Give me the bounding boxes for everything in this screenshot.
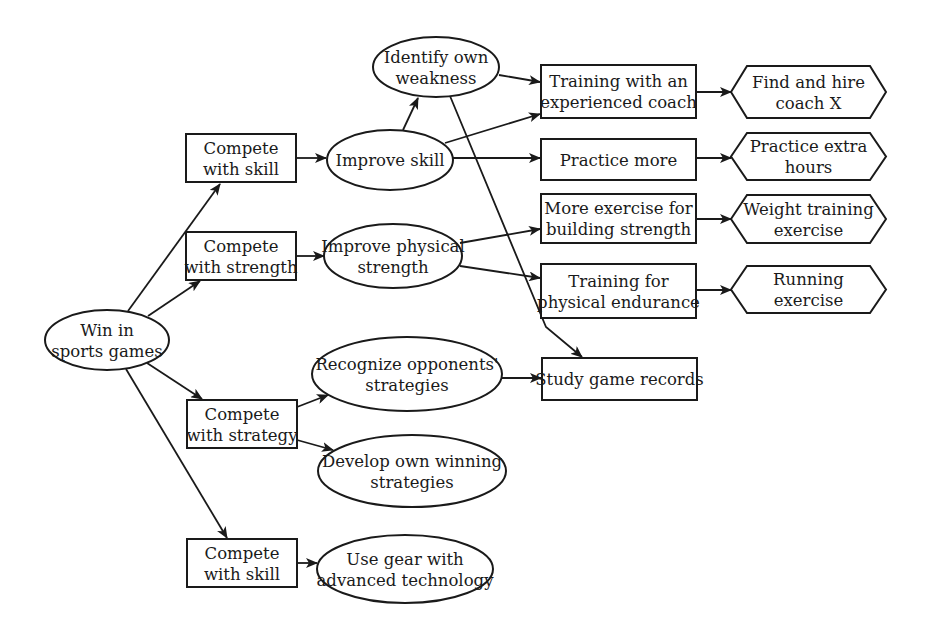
- node-label: Improve physical: [321, 237, 465, 256]
- node-label: Weight training: [743, 200, 874, 219]
- node-label: strength: [357, 258, 429, 277]
- node-extra-hours: Practice extrahours: [731, 133, 886, 180]
- nodes: Win insports gamesCompetewith skillCompe…: [45, 37, 886, 603]
- arrow-improve_skill-to-identify: [403, 98, 418, 130]
- node-hire: Find and hirecoach X: [731, 66, 886, 118]
- node-identify: Identify ownweakness: [373, 37, 499, 97]
- node-practice-more: Practice more: [541, 139, 696, 180]
- node-label: weakness: [395, 69, 476, 88]
- node-label: Training with an: [549, 72, 688, 91]
- node-label: Compete: [204, 237, 279, 256]
- ellipse-shape: [45, 310, 169, 370]
- node-win: Win insports games: [45, 310, 169, 370]
- node-label: Practice extra: [750, 137, 868, 156]
- ellipse-shape: [312, 337, 502, 411]
- ellipse-shape: [324, 224, 462, 288]
- node-label: exercise: [774, 291, 843, 310]
- arrow-win-to-strategy: [147, 363, 202, 399]
- node-label: Running: [773, 270, 844, 289]
- node-label: Win in: [80, 321, 134, 340]
- node-label: sports games: [51, 342, 162, 361]
- node-improve-skill: Improve skill: [327, 130, 453, 190]
- arrow-identify-to-coach_training: [499, 75, 540, 82]
- node-endurance: Training forphysical endurance: [537, 264, 700, 318]
- arrow-strategy-to-recognize: [297, 395, 328, 407]
- node-recognize: Recognize opponents'strategies: [312, 337, 502, 411]
- goal-tree-diagram: Win insports gamesCompetewith skillCompe…: [0, 0, 926, 639]
- arrow-win-to-strength: [148, 281, 200, 316]
- node-more-exercise: More exercise forbuilding strength: [541, 194, 696, 243]
- node-label: coach X: [776, 94, 842, 113]
- arrow-improve_strength-to-endurance: [460, 266, 540, 278]
- node-label: Recognize opponents': [315, 355, 498, 374]
- node-label: Develop own winning: [322, 452, 503, 471]
- node-label: hours: [785, 158, 833, 177]
- node-study: Study game records: [535, 358, 704, 400]
- ellipse-shape: [373, 37, 499, 97]
- node-label: Use gear with: [346, 550, 464, 569]
- arrow-improve_strength-to-more_exercise: [460, 229, 540, 243]
- node-weight: Weight trainingexercise: [731, 195, 886, 243]
- node-label: Identify own: [384, 48, 489, 67]
- node-label: Compete: [204, 139, 279, 158]
- node-skill1: Competewith skill: [186, 134, 296, 182]
- node-label: Study game records: [535, 370, 704, 389]
- node-label: Practice more: [560, 151, 677, 170]
- node-strength: Competewith strength: [184, 232, 297, 280]
- node-label: physical endurance: [537, 293, 700, 312]
- arrow-win-to-skill2: [126, 369, 227, 538]
- node-label: exercise: [774, 221, 843, 240]
- node-coach-training: Training with anexperienced coach: [540, 65, 697, 118]
- node-label: Compete: [205, 544, 280, 563]
- ellipse-shape: [318, 435, 506, 507]
- node-develop: Develop own winningstrategies: [318, 435, 506, 507]
- node-label: Improve skill: [335, 151, 444, 170]
- node-label: with skill: [204, 565, 280, 584]
- node-label: strategies: [365, 376, 448, 395]
- node-label: with strategy: [186, 426, 298, 445]
- node-running: Runningexercise: [731, 266, 886, 313]
- node-skill2: Competewith skill: [187, 539, 297, 587]
- node-label: Training for: [568, 272, 668, 291]
- node-label: with skill: [203, 160, 279, 179]
- arrow-strategy-to-develop: [297, 440, 333, 450]
- node-label: with strength: [184, 258, 297, 277]
- node-strategy: Competewith strategy: [186, 400, 298, 448]
- node-gear: Use gear withadvanced technology: [317, 535, 495, 603]
- node-label: strategies: [370, 473, 453, 492]
- node-improve-strength: Improve physicalstrength: [321, 224, 465, 288]
- node-label: More exercise for: [544, 199, 692, 218]
- ellipse-shape: [317, 535, 493, 603]
- node-label: Compete: [205, 405, 280, 424]
- node-label: experienced coach: [540, 93, 697, 112]
- node-label: Find and hire: [752, 73, 865, 92]
- node-label: building strength: [546, 220, 692, 239]
- node-label: advanced technology: [317, 571, 495, 590]
